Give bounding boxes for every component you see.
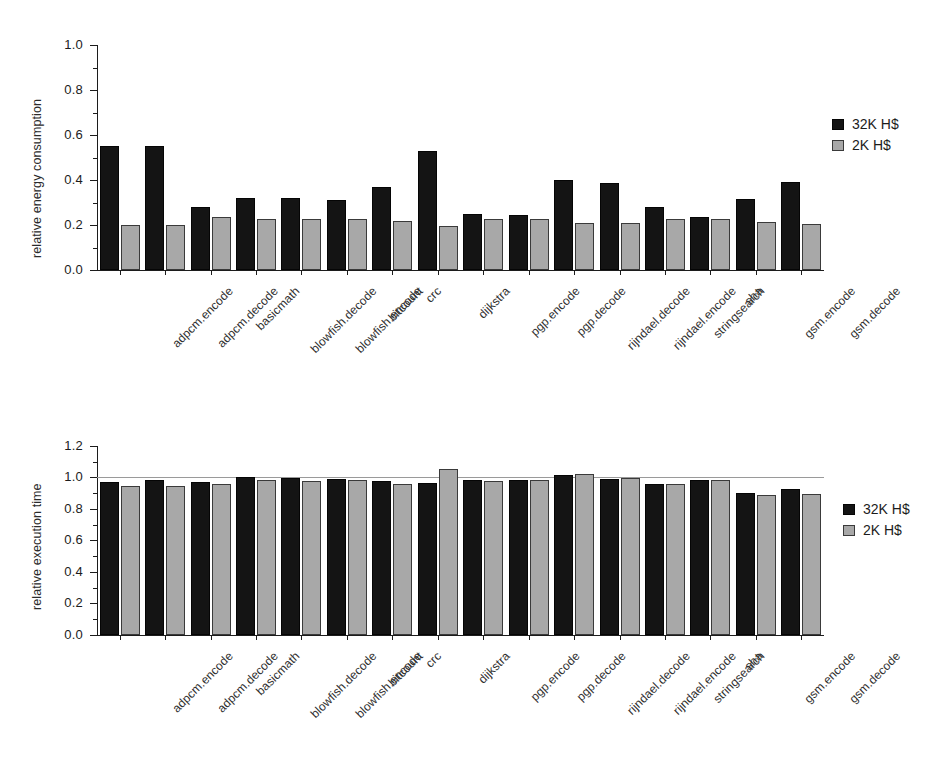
legend-item: 32K H$ [843, 500, 910, 518]
bar [736, 199, 755, 270]
legend-exectime: 32K H$2K H$ [843, 500, 910, 542]
bar [191, 207, 210, 270]
y-tick-major [90, 225, 97, 226]
bar [212, 217, 231, 270]
x-axis-labels-exectime: adpcm.encodeadpcm.decodebasicmathblowfis… [0, 400, 949, 560]
x-tick [165, 271, 166, 275]
bar [418, 151, 437, 270]
bar [281, 198, 300, 270]
legend-swatch-2k-icon [843, 525, 855, 536]
y-tick-major [90, 603, 97, 604]
bar [393, 221, 412, 271]
y-tick-label: 0.4 [49, 172, 83, 187]
bar [236, 198, 255, 270]
x-tick [165, 636, 166, 640]
bar [509, 215, 528, 270]
x-axis-spine [97, 635, 824, 636]
legend-label: 2K H$ [852, 137, 891, 153]
bar [463, 214, 482, 270]
x-tick [665, 636, 666, 640]
x-tick [483, 636, 484, 640]
bar [372, 187, 391, 270]
x-tick [756, 636, 757, 640]
bar [484, 219, 503, 270]
x-tick [211, 636, 212, 640]
y-tick-label: 0.0 [49, 627, 83, 642]
chart-panel-exectime: relative execution time 0.00.20.40.60.81… [0, 400, 949, 771]
x-axis-labels-energy: adpcm.encodeadpcm.decodebasicmathblowfis… [0, 8, 949, 168]
bar [302, 219, 321, 270]
x-tick [256, 271, 257, 275]
legend-item: 2K H$ [843, 521, 910, 539]
chart-panel-energy: relative energy consumption 0.00.20.40.6… [0, 8, 949, 398]
y-tick-major [90, 635, 97, 636]
x-tick [438, 636, 439, 640]
x-tick [301, 636, 302, 640]
x-tick [756, 271, 757, 275]
x-tick [710, 636, 711, 640]
x-tick [620, 636, 621, 640]
x-tick [801, 271, 802, 275]
y-tick-label: 0.2 [49, 595, 83, 610]
y-tick-label: 0.4 [49, 564, 83, 579]
x-tick [801, 636, 802, 640]
x-tick [347, 636, 348, 640]
legend-swatch-32k-icon [832, 119, 844, 130]
legend-item: 2K H$ [832, 136, 899, 154]
x-tick [529, 271, 530, 275]
x-tick [529, 636, 530, 640]
bar [757, 222, 776, 270]
bar [439, 226, 458, 270]
bar [530, 219, 549, 270]
legend-label: 32K H$ [852, 116, 899, 132]
y-tick-major [90, 572, 97, 573]
x-tick [483, 271, 484, 275]
legend-swatch-32k-icon [843, 504, 855, 515]
bar [554, 180, 573, 270]
x-tick [574, 636, 575, 640]
x-tick [392, 271, 393, 275]
bar [121, 225, 140, 270]
y-tick-major [90, 270, 97, 271]
x-tick [665, 271, 666, 275]
legend-swatch-2k-icon [832, 140, 844, 151]
x-tick [438, 271, 439, 275]
x-tick [301, 271, 302, 275]
legend-label: 2K H$ [863, 522, 902, 538]
bar [711, 219, 730, 270]
bar [802, 224, 821, 270]
bar [327, 200, 346, 270]
bar [645, 207, 664, 270]
legend-label: 32K H$ [863, 501, 910, 517]
x-tick [120, 636, 121, 640]
bar [348, 219, 367, 270]
x-tick [211, 271, 212, 275]
figure-two-bar-charts: relative energy consumption 0.00.20.40.6… [0, 0, 949, 771]
x-tick [392, 636, 393, 640]
x-tick [574, 271, 575, 275]
legend-energy: 32K H$2K H$ [832, 115, 899, 157]
bar [621, 223, 640, 270]
x-axis-spine [97, 270, 824, 271]
x-tick [347, 271, 348, 275]
x-tick [120, 271, 121, 275]
legend-item: 32K H$ [832, 115, 899, 133]
x-tick [256, 636, 257, 640]
bar [690, 217, 709, 270]
y-tick-label: 0.0 [49, 262, 83, 277]
x-tick [710, 271, 711, 275]
bar [257, 219, 276, 270]
bar [575, 223, 594, 270]
bar [600, 183, 619, 270]
bar [781, 182, 800, 270]
y-tick-label: 0.2 [49, 217, 83, 232]
y-tick-major [90, 180, 97, 181]
x-tick [620, 271, 621, 275]
bar [166, 225, 185, 270]
bar [666, 219, 685, 270]
